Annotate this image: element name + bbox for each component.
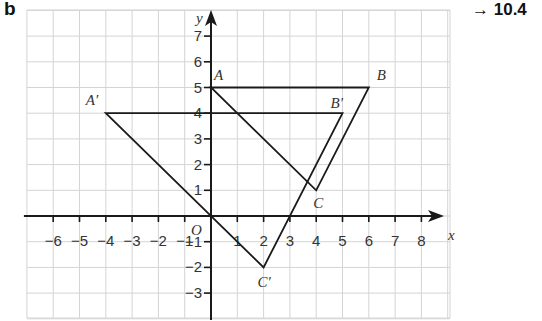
y-tick-label: −1 — [185, 233, 202, 250]
y-tick-label: 6 — [194, 53, 202, 70]
x-tick-label: 6 — [365, 232, 373, 249]
vertex-label: A — [213, 67, 224, 83]
x-tick-label: −3 — [124, 232, 141, 249]
vertex-label: B′ — [331, 95, 344, 111]
vertex-label: B — [377, 67, 386, 83]
y-tick-label: 3 — [194, 130, 202, 147]
x-tick-label: 5 — [338, 232, 346, 249]
y-axis-label: y — [194, 10, 203, 26]
y-tick-label: −3 — [185, 284, 202, 301]
vertex-label: A′ — [85, 92, 99, 108]
x-tick-label: 3 — [286, 232, 294, 249]
x-tick-label: −6 — [45, 232, 62, 249]
x-tick-label: −5 — [71, 232, 88, 249]
coordinate-grid: xyO−6−5−4−3−2−112345678−3−2−11234567ABCA… — [0, 0, 542, 321]
x-tick-label: 8 — [417, 232, 425, 249]
y-tick-label: 1 — [194, 181, 202, 198]
x-tick-label: 4 — [312, 232, 320, 249]
x-tick-label: −2 — [150, 232, 167, 249]
y-tick-label: 7 — [194, 27, 202, 44]
x-axis-label: x — [447, 227, 455, 243]
x-tick-label: 7 — [391, 232, 399, 249]
vertex-label: C — [313, 195, 324, 211]
x-tick-label: −4 — [97, 232, 114, 249]
y-tick-label: 5 — [194, 79, 202, 96]
y-tick-label: 2 — [194, 156, 202, 173]
y-tick-label: −2 — [185, 258, 202, 275]
vertex-label: C′ — [258, 274, 272, 290]
x-tick-label: 2 — [259, 232, 267, 249]
